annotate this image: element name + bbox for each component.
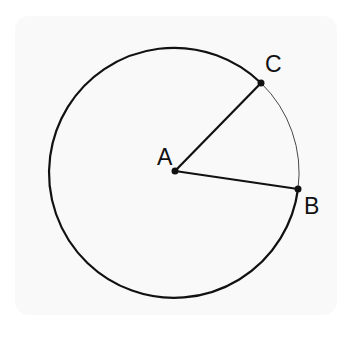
point-a [172,168,179,175]
minor-arc-bc [261,83,299,189]
point-b [295,186,302,193]
segment-ac [175,83,261,171]
label-b: B [304,193,319,219]
label-a: A [157,144,173,170]
point-c [258,80,265,87]
circle-diagram: A B C [0,0,355,338]
label-c: C [265,51,282,77]
segment-ab [175,171,298,189]
